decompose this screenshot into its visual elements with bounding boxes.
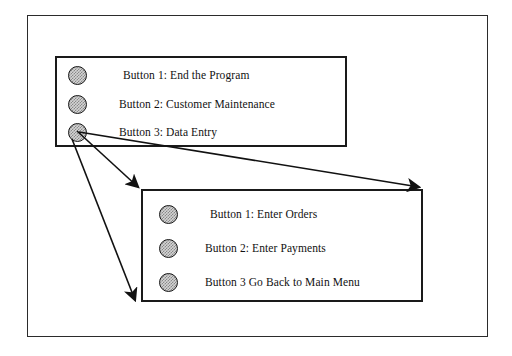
diagram-canvas: Button 1: End the Program Button 2: Cust… — [0, 0, 512, 356]
main-menu-label-1: Button 1: End the Program — [123, 69, 249, 81]
radio-button-icon[interactable] — [68, 95, 87, 114]
radio-button-icon[interactable] — [159, 273, 178, 292]
main-menu-row-1[interactable]: Button 1: End the Program — [57, 62, 345, 88]
radio-button-icon[interactable] — [159, 205, 178, 224]
main-menu-row-2[interactable]: Button 2: Customer Maintenance — [57, 91, 345, 117]
radio-button-icon[interactable] — [159, 239, 178, 258]
data-entry-panel: Button 1: Enter Orders Button 2: Enter P… — [141, 189, 423, 302]
data-entry-label-3: Button 3 Go Back to Main Menu — [205, 276, 360, 288]
main-menu-panel: Button 1: End the Program Button 2: Cust… — [55, 56, 347, 147]
data-entry-row-2[interactable]: Button 2: Enter Payments — [143, 235, 421, 261]
data-entry-label-2: Button 2: Enter Payments — [205, 242, 326, 254]
radio-button-icon[interactable] — [68, 66, 87, 85]
main-menu-label-2: Button 2: Customer Maintenance — [119, 98, 275, 110]
data-entry-label-1: Button 1: Enter Orders — [210, 208, 317, 220]
data-entry-row-1[interactable]: Button 1: Enter Orders — [143, 201, 421, 227]
radio-button-icon[interactable] — [68, 123, 87, 142]
data-entry-row-3[interactable]: Button 3 Go Back to Main Menu — [143, 269, 421, 295]
main-menu-row-3[interactable]: Button 3: Data Entry — [57, 119, 345, 145]
main-menu-label-3: Button 3: Data Entry — [119, 126, 217, 138]
